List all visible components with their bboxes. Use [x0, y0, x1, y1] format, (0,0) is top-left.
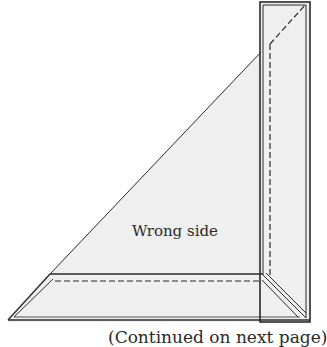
continued-caption: (Continued on next page) — [108, 327, 327, 347]
wrong-side-label: Wrong side — [132, 222, 218, 240]
